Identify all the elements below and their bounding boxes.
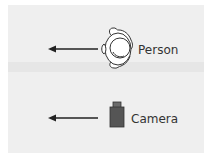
person-label: Person [138, 43, 178, 57]
camera-label: Camera [131, 112, 178, 126]
person-arrow-icon [48, 46, 98, 53]
diagram-canvas [0, 0, 215, 160]
camera-icon [110, 102, 124, 127]
person-top-view-icon [102, 28, 133, 68]
camera-arrow-icon [48, 115, 98, 122]
